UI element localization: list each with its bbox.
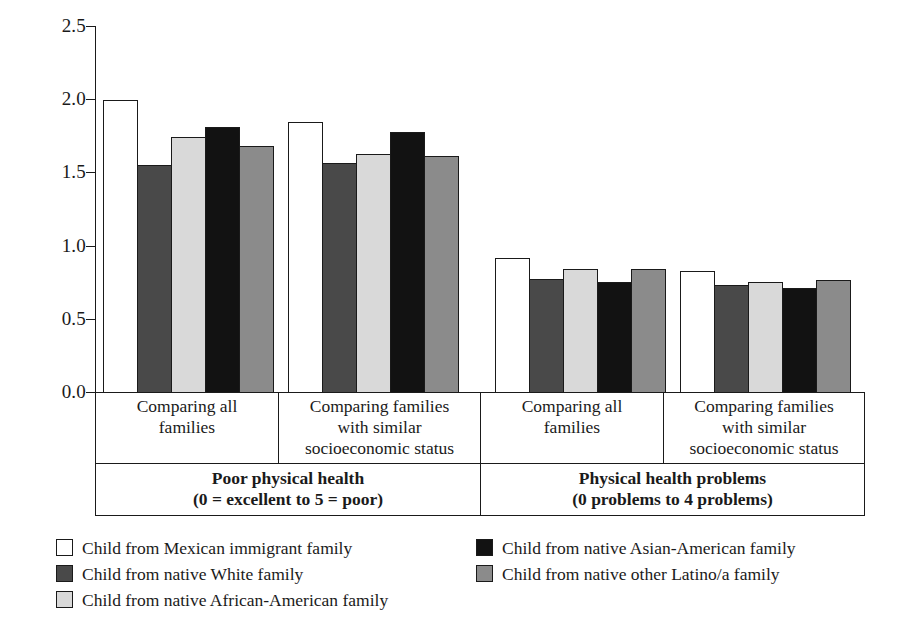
y-axis-tick	[86, 392, 95, 393]
y-axis-tick	[86, 26, 95, 27]
panel-title: Poor physical health	[193, 468, 383, 489]
bar	[390, 132, 425, 393]
y-axis-tick	[86, 246, 95, 247]
bar-group	[103, 26, 273, 393]
y-axis-tick	[86, 319, 95, 320]
y-axis-tick	[86, 99, 95, 100]
legend-swatch-icon	[56, 565, 73, 582]
panel-label-row: Poor physical health(0 = excellent to 5 …	[95, 464, 865, 516]
y-axis-tick-label: 1.5	[8, 162, 86, 181]
bar-group	[288, 26, 458, 393]
bar	[137, 165, 172, 393]
legend-label: Child from Mexican immigrant family	[82, 538, 352, 558]
bar	[103, 100, 138, 393]
legend-label: Child from native Asian-American family	[502, 538, 796, 558]
legend-swatch-icon	[476, 565, 493, 582]
bar	[495, 258, 530, 393]
group-label-cell: Comparing allfamilies	[480, 392, 663, 464]
bar	[816, 280, 851, 393]
bar	[563, 269, 598, 393]
y-axis-tick-label: 0.5	[8, 309, 86, 328]
bar	[239, 146, 274, 393]
y-axis-tick-label: 1.0	[8, 236, 86, 255]
bar	[748, 282, 783, 393]
group-label-cell: Comparing allfamilies	[95, 392, 278, 464]
panel-subtitle: (0 problems to 4 problems)	[572, 489, 773, 510]
bar	[424, 156, 459, 393]
y-axis-tick-label: 0.0	[8, 382, 86, 401]
y-axis-tick-label: 2.0	[8, 89, 86, 108]
panel-label-cell: Physical health problems(0 problems to 4…	[480, 464, 865, 516]
group-label-cell: Comparing familieswith similarsocioecono…	[278, 392, 480, 464]
legend-item: Child from Mexican immigrant family	[56, 536, 476, 559]
y-axis-tick	[86, 172, 95, 173]
chart-figure: 0.00.51.01.52.02.5 Comparing allfamilies…	[0, 0, 900, 636]
bar	[529, 279, 564, 393]
y-axis-tick-label: 2.5	[8, 16, 86, 35]
bar	[205, 127, 240, 393]
legend-label: Child from native other Latino/a family	[502, 564, 780, 584]
bar	[631, 269, 666, 393]
panel-label-cell: Poor physical health(0 = excellent to 5 …	[95, 464, 480, 516]
legend-label: Child from native White family	[82, 564, 303, 584]
bar	[782, 288, 817, 393]
legend-item: Child from native other Latino/a family	[476, 562, 876, 585]
bar-group	[680, 26, 850, 393]
group-label-cell: Comparing familieswith similarsocioecono…	[663, 392, 865, 464]
legend-item: Child from native White family	[56, 562, 476, 585]
bar	[171, 137, 206, 393]
group-label-row: Comparing allfamiliesComparing familiesw…	[95, 392, 865, 464]
bar	[680, 271, 715, 393]
panel-subtitle: (0 = excellent to 5 = poor)	[193, 489, 383, 510]
bar	[288, 122, 323, 393]
panel-title: Physical health problems	[572, 468, 773, 489]
bar	[322, 163, 357, 393]
legend-item: Child from native Asian-American family	[476, 536, 876, 559]
legend-label: Child from native African-American famil…	[82, 590, 388, 610]
bar	[597, 282, 632, 393]
category-label-table: Comparing allfamiliesComparing familiesw…	[95, 392, 865, 516]
legend: Child from Mexican immigrant familyChild…	[56, 536, 876, 611]
legend-swatch-icon	[56, 539, 73, 556]
legend-item: Child from native African-American famil…	[56, 588, 476, 611]
legend-column-right: Child from native Asian-American familyC…	[476, 536, 876, 611]
legend-swatch-icon	[56, 591, 73, 608]
legend-column-left: Child from Mexican immigrant familyChild…	[56, 536, 476, 611]
bar	[714, 285, 749, 393]
legend-swatch-icon	[476, 539, 493, 556]
bar	[356, 154, 391, 393]
bar-group	[495, 26, 665, 393]
plot-area	[96, 26, 864, 393]
